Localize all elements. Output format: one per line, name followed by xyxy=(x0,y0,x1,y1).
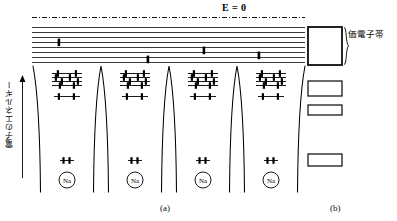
conduction-band xyxy=(32,28,305,63)
well-curve xyxy=(230,66,245,192)
atomic-well-group: Na xyxy=(188,70,218,188)
p-level-electrons xyxy=(55,70,79,89)
panel-b-bands xyxy=(308,27,342,166)
electron-marker xyxy=(203,47,206,55)
physics-band-diagram-figure: Na xyxy=(0,0,397,221)
electron-marker xyxy=(147,56,150,64)
band-box-3 xyxy=(308,105,342,115)
caption-b: (b) xyxy=(330,203,341,213)
band-box-4 xyxy=(308,154,342,166)
energy-axis-arrow xyxy=(20,75,26,178)
nucleus-label: Na xyxy=(131,177,140,185)
diagram-canvas: Na xyxy=(0,0,397,221)
y-axis-label: 電子のエネルギー xyxy=(3,80,17,148)
well-curve xyxy=(162,66,177,192)
p-level-electrons xyxy=(191,70,215,89)
nucleus-label: Na xyxy=(267,177,276,185)
nucleus-label: Na xyxy=(63,177,72,185)
electron-marker xyxy=(58,39,61,47)
p-level-electrons xyxy=(259,70,283,89)
well-curve-edge-right xyxy=(298,66,306,192)
well-curve xyxy=(94,66,109,192)
p-level-electrons xyxy=(123,70,147,89)
electron-marker xyxy=(258,52,261,60)
valence-band-label: 価電子帯 xyxy=(348,27,384,39)
valence-band-box xyxy=(308,27,342,65)
well-curve-edge-left xyxy=(33,66,41,192)
caption-a: (a) xyxy=(160,203,170,213)
atomic-well-group: Na xyxy=(52,70,82,188)
nucleus-label: Na xyxy=(199,177,208,185)
energy-zero-label: E = 0 xyxy=(222,2,246,13)
atomic-well-group: Na xyxy=(120,70,150,188)
band-box-2 xyxy=(308,81,342,96)
atomic-well-group: Na xyxy=(256,70,286,188)
